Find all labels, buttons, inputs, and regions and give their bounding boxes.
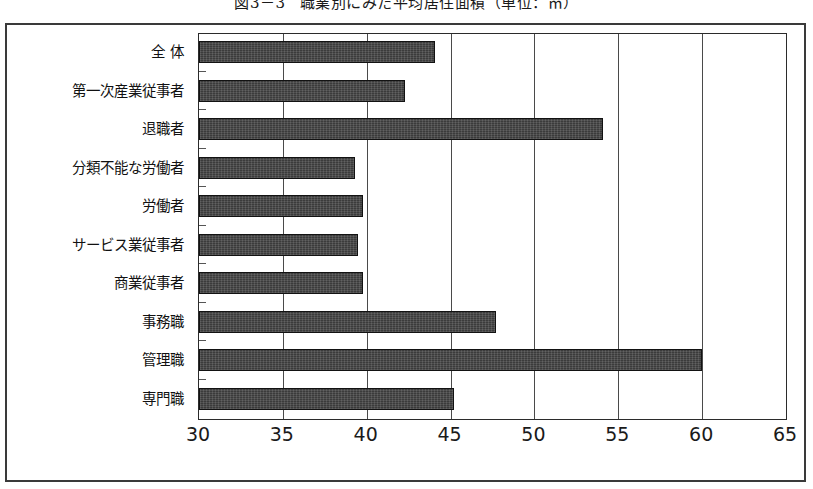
category-label: 管理職: [142, 341, 184, 380]
category-label: 全 体: [151, 33, 184, 72]
category-tick: [199, 263, 206, 264]
category-label: サービス業従事者: [72, 226, 184, 265]
category-label: 商業従事者: [114, 264, 184, 303]
value-tick-label: 35: [270, 423, 294, 445]
category-tick: [199, 302, 206, 303]
bar[interactable]: [199, 349, 702, 371]
value-tick-label: 55: [605, 423, 629, 445]
chart-row: [199, 73, 786, 112]
category-tick: [199, 340, 206, 341]
value-tick-label: 65: [773, 423, 797, 445]
bar[interactable]: [199, 118, 603, 140]
category-label: 第一次産業従事者: [72, 72, 184, 111]
chart-row: [199, 150, 786, 189]
category-axis-labels: 全 体第一次産業従事者退職者分類不能な労働者労働者サービス業従事者商業従事者事務…: [7, 33, 193, 418]
chart-row: [199, 34, 786, 73]
chart-row: [199, 304, 786, 343]
bar[interactable]: [199, 41, 435, 63]
category-tick: [199, 225, 206, 226]
bar[interactable]: [199, 80, 405, 102]
value-tick-label: 60: [689, 423, 713, 445]
category-label: 専門職: [142, 380, 184, 419]
bar[interactable]: [199, 157, 355, 179]
bar[interactable]: [199, 234, 358, 256]
value-tick-label: 40: [354, 423, 378, 445]
chart-row: [199, 111, 786, 150]
bar[interactable]: [199, 311, 496, 333]
bar[interactable]: [199, 195, 363, 217]
figure-caption: 図3－3職業別にみた平均居住面積（単位：㎡）: [0, 0, 813, 12]
figure-title: 職業別にみた平均居住面積（単位：㎡）: [300, 0, 579, 12]
bar[interactable]: [199, 388, 454, 410]
category-tick: [199, 186, 206, 187]
category-label: 分類不能な労働者: [72, 149, 184, 188]
value-axis-labels: 3035404550556065: [7, 423, 808, 463]
figure-frame: 全 体第一次産業従事者退職者分類不能な労働者労働者サービス業従事者商業従事者事務…: [5, 23, 806, 482]
chart-row: [199, 188, 786, 227]
bar[interactable]: [199, 272, 363, 294]
chart-row: [199, 227, 786, 266]
chart-row: [199, 381, 786, 420]
category-label: 労働者: [142, 187, 184, 226]
category-label: 事務職: [142, 303, 184, 342]
bar-chart: 全 体第一次産業従事者退職者分類不能な労働者労働者サービス業従事者商業従事者事務…: [7, 25, 808, 484]
value-tick-label: 50: [521, 423, 545, 445]
value-tick-label: 30: [186, 423, 210, 445]
category-label: 退職者: [142, 110, 184, 149]
value-tick-label: 45: [437, 423, 461, 445]
category-tick: [199, 109, 206, 110]
figure-number: 図3－3: [234, 0, 285, 12]
chart-row: [199, 342, 786, 381]
category-tick: [199, 379, 206, 380]
category-tick: [199, 148, 206, 149]
plot-area: [198, 33, 787, 420]
chart-row: [199, 265, 786, 304]
category-tick: [199, 71, 206, 72]
